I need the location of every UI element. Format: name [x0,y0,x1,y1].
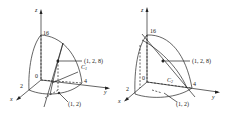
x-tick-2: 2 [20,83,23,89]
curve-c2-label: C2 [167,77,173,84]
figure-right-c2: z 16 0 2 4 x y (1, 2, 8) C2 (1, 2) [112,0,224,114]
point-2d-label: (1, 2) [68,101,81,107]
origin-label: 0 [35,73,38,79]
curve-c1-label: C1 [81,64,87,71]
figure-left-c1: z 16 0 2 4 x y (1, 2, 8) C1 (1, 2) [0,0,112,114]
point-3d-label: (1, 2, 8) [192,58,211,64]
x-axis-label: x [118,98,121,104]
x-tick-2: 2 [126,86,129,92]
z-axis-label: z [35,7,37,13]
y-tick-4: 4 [193,81,196,87]
z-tick-16: 16 [150,28,156,34]
z-axis-label: z [141,7,143,13]
surface-diagram-left [0,0,112,114]
surface-diagram-right [112,0,224,114]
point-2d-label: (1, 2) [176,101,189,107]
x-axis-label: x [10,96,13,102]
y-axis-label: y [104,89,107,95]
z-tick-16: 16 [43,30,49,36]
y-tick-4: 4 [84,78,87,84]
y-axis-label: y [212,94,215,100]
origin-label: 0 [142,75,145,81]
